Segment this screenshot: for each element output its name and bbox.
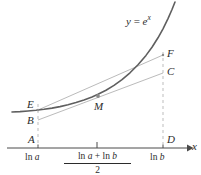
tick-label-ln-b: ln b [150,153,165,163]
point-label-C: C [167,66,174,77]
curve-equation-label: y = ex [126,14,151,27]
point-label-A: A [28,134,35,145]
tick-ln-b-value: b [160,152,165,162]
equation-exponent-x: x [148,13,151,22]
x-axis-label: x [192,141,197,152]
midpoint-plus-ln: + ln [92,151,112,161]
midpoint-value-b: b [112,151,117,161]
tick-label-midpoint: ln a + ln b 2 [64,151,131,175]
midpoint-denominator: 2 [64,164,131,175]
point-marker-F [162,54,164,56]
point-label-B: B [27,115,34,126]
point-marker-M [96,94,100,98]
tangent-segment-BC [38,73,163,120]
tick-ln-a-value: a [35,152,40,162]
point-label-D: D [167,134,175,145]
midpoint-numerator: ln a + ln b [64,151,131,164]
tick-label-ln-a: ln a [25,153,40,163]
point-label-M: M [94,101,103,112]
axis-tick-marks [38,142,163,148]
midpoint-ln-a-prefix: ln [78,151,88,161]
tick-ln-b-prefix: ln [150,152,160,162]
tick-ln-a-prefix: ln [25,152,35,162]
point-label-E: E [27,99,34,110]
equation-equals: = [131,15,143,27]
point-marker-E [37,109,39,111]
point-label-F: F [167,48,174,59]
exponential-curve-figure: y = ex x A B C D E F M ln a ln a + ln b … [0,0,201,175]
figure-canvas [0,0,201,175]
